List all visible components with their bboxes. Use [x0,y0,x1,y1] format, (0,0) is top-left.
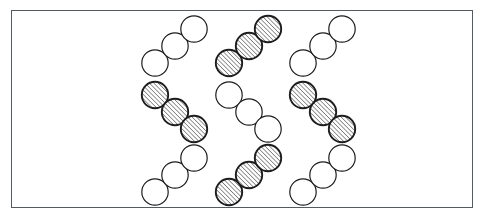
cluster-circle [181,16,207,42]
cluster-circle [181,116,207,142]
circle-cluster [290,16,355,76]
cluster-circle [181,145,207,171]
circle-cluster [142,82,207,142]
cluster-circle [255,16,281,42]
circle-cluster-diagram [0,0,484,220]
circle-cluster [216,82,281,142]
cluster-circle [329,16,355,42]
cluster-circle [329,145,355,171]
circle-cluster [142,145,207,205]
circle-cluster [142,16,207,76]
figure-root [0,0,484,220]
cluster-circle [255,116,281,142]
clusters-layer [142,16,355,205]
cluster-circle [255,145,281,171]
circle-cluster [290,145,355,205]
circle-cluster [216,145,281,205]
circle-cluster [290,82,355,142]
cluster-circle [329,116,355,142]
circle-cluster [216,16,281,76]
